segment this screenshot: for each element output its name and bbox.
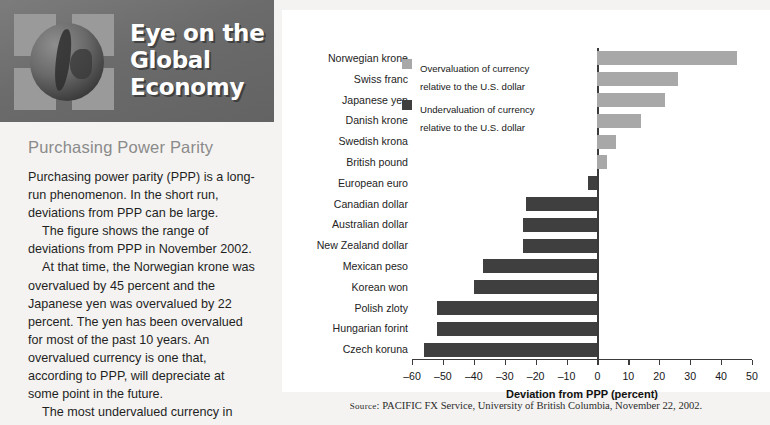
chart-legend-swatch: [402, 59, 412, 69]
globe-sphere: [30, 23, 104, 101]
article-paragraph-2: The figure shows the range of deviations…: [28, 222, 256, 258]
chart-legend-label: Overvaluation of currency relative to th…: [420, 63, 529, 92]
source-text: : PACIFIC FX Service, University of Brit…: [377, 400, 703, 411]
page-root: Eye on the Global Economy Purchasing Pow…: [0, 0, 770, 425]
article-paragraph-1: Purchasing power parity (PPP) is a long-…: [28, 168, 256, 222]
chart-legend-item: Overvaluation of currency relative to th…: [402, 58, 562, 94]
chart-bar: [474, 280, 598, 294]
chart-x-tick: [536, 360, 537, 365]
chart-x-tick: [412, 360, 413, 365]
masthead-banner: Eye on the Global Economy: [0, 0, 274, 122]
masthead-title: Eye on the Global Economy: [130, 20, 270, 101]
chart-x-tick: [721, 360, 722, 365]
chart-x-tick-label: –10: [558, 370, 576, 382]
chart-x-tick-label: 20: [653, 370, 665, 382]
chart-x-tick: [659, 360, 660, 365]
chart-legend-item: Undervaluation of currency relative to t…: [402, 99, 562, 135]
chart-x-tick: [690, 360, 691, 365]
chart-bar: [424, 343, 597, 357]
article-paragraph-3: At that time, the Norwegian krone was ov…: [28, 258, 256, 403]
chart-x-tick-label: 0: [595, 370, 601, 382]
chart-category-label: Danish krone: [346, 110, 408, 131]
chart-category-label: Hungarian forint: [333, 318, 408, 339]
chart-panel: Norwegian kroneSwiss francJapanese yenDa…: [282, 10, 770, 392]
chart-category-label: Canadian dollar: [334, 194, 408, 215]
chart-category-label: Norwegian krone: [328, 48, 408, 69]
chart-category-label: British pound: [346, 152, 408, 173]
chart-x-tick-label: –30: [496, 370, 514, 382]
chart-bar: [526, 197, 597, 211]
chart-bar: [437, 322, 598, 336]
chart-bar: [588, 176, 597, 190]
chart-legend: Overvaluation of currency relative to th…: [402, 58, 562, 140]
chart-bar: [523, 239, 597, 253]
chart-bar: [437, 301, 598, 315]
chart-x-axis: [412, 359, 752, 360]
article-column: Eye on the Global Economy Purchasing Pow…: [0, 0, 282, 425]
article-paragraph-4: The most undervalued currency in: [28, 403, 256, 421]
chart-category-label: Polish zloty: [354, 298, 408, 319]
chart-x-tick-label: –50: [434, 370, 452, 382]
chart-legend-swatch: [402, 100, 412, 110]
chart-category-labels: Norwegian kroneSwiss francJapanese yenDa…: [286, 48, 408, 360]
chart-category-label: New Zealand dollar: [317, 235, 408, 256]
chart-bar: [597, 114, 640, 128]
chart-bar: [597, 93, 665, 107]
chart-x-tick: [597, 360, 598, 365]
chart-category-label: European euro: [338, 173, 408, 194]
chart-bar: [523, 218, 597, 232]
chart-source-note: Source: PACIFIC FX Service, University o…: [282, 400, 770, 411]
chart-category-label: Australian dollar: [332, 214, 408, 235]
chart-category-label: Korean won: [351, 277, 408, 298]
chart-x-tick: [443, 360, 444, 365]
chart-x-tick-label: –20: [527, 370, 545, 382]
source-prefix: Source: [350, 401, 377, 411]
section-title: Purchasing Power Parity: [28, 138, 278, 157]
chart-category-label: Mexican peso: [343, 256, 408, 277]
chart-x-tick-label: 40: [715, 370, 727, 382]
chart-bar: [597, 51, 736, 65]
chart-x-tick: [567, 360, 568, 365]
chart-bar: [597, 72, 677, 86]
chart-category-label: Czech koruna: [343, 339, 408, 360]
chart-x-tick-label: 50: [746, 370, 758, 382]
chart-x-tick-label: 10: [622, 370, 634, 382]
chart-x-tick-label: 30: [684, 370, 696, 382]
article-body: Purchasing power parity (PPP) is a long-…: [28, 168, 256, 421]
chart-x-tick: [752, 360, 753, 365]
chart-x-tick-label: –40: [465, 370, 483, 382]
chart-x-axis-title: Deviation from PPP (percent): [412, 388, 752, 400]
chart-x-tick: [505, 360, 506, 365]
chart-x-tick: [628, 360, 629, 365]
globe-icon: [14, 10, 118, 114]
chart-legend-label: Undervaluation of currency relative to t…: [420, 104, 535, 133]
chart-bar: [483, 259, 597, 273]
chart-category-label: Swedish krona: [339, 131, 409, 152]
chart-bar: [597, 135, 616, 149]
chart-x-tick-label: –60: [403, 370, 421, 382]
chart-category-label: Japanese yen: [342, 90, 408, 111]
chart-bar: [597, 155, 606, 169]
chart-x-tick: [474, 360, 475, 365]
chart-figure: Norwegian kroneSwiss francJapanese yenDa…: [282, 10, 770, 392]
chart-category-label: Swiss franc: [354, 69, 408, 90]
